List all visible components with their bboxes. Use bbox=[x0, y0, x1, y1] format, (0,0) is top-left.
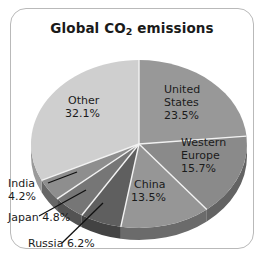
label-china-value: 13.5% bbox=[131, 191, 166, 204]
label-western-europe-line1: Western bbox=[181, 136, 226, 149]
label-other-value: 32.1% bbox=[65, 107, 100, 120]
label-united-states-line1: United bbox=[164, 83, 200, 96]
label-united-states-value: 23.5% bbox=[164, 109, 199, 122]
label-japan: Japan 4.8% bbox=[7, 211, 70, 224]
label-china-line1: China bbox=[134, 178, 165, 191]
label-india-line1: India bbox=[8, 177, 35, 190]
label-united-states-line2: States bbox=[164, 96, 199, 109]
label-other-line1: Other bbox=[68, 94, 100, 107]
label-india-value: 4.2% bbox=[8, 190, 36, 203]
label-western-europe-line2: Europe bbox=[181, 149, 220, 162]
pie-chart-svg: United States 23.5% Western Europe 15.7%… bbox=[0, 0, 278, 276]
label-western-europe-value: 15.7% bbox=[181, 162, 216, 175]
chart-figure: Global CO2 emissions United States 23.5%… bbox=[0, 0, 278, 276]
label-russia: Russia 6.2% bbox=[28, 237, 95, 250]
